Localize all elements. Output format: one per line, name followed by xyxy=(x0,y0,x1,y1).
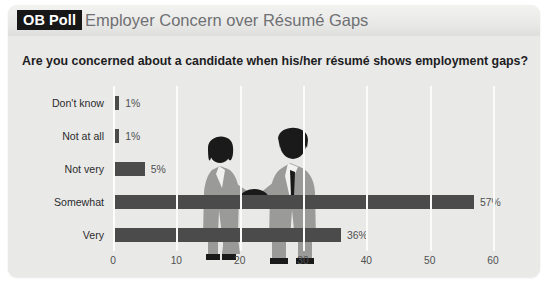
gridline xyxy=(303,86,305,251)
x-axis-tick-label: 0 xyxy=(93,255,133,266)
gridline xyxy=(176,86,178,251)
category-label: Not very xyxy=(65,163,104,175)
bar xyxy=(113,195,474,209)
poll-panel: OB Poll Employer Concern over Résumé Gap… xyxy=(8,5,540,277)
bar xyxy=(113,162,145,176)
bar-value-label: 1% xyxy=(125,97,140,108)
panel-body: Are you concerned about a candidate when… xyxy=(8,36,540,277)
x-axis-tick-label: 60 xyxy=(473,255,513,266)
bar-value-label: 5% xyxy=(151,163,166,174)
page-title: Employer Concern over Résumé Gaps xyxy=(85,9,368,31)
panel-header: OB Poll Employer Concern over Résumé Gap… xyxy=(8,5,540,37)
gridline xyxy=(240,86,242,251)
bar-chart: Don't know1%Not at all1%Not very5%Somewh… xyxy=(113,86,493,251)
gridline xyxy=(366,86,368,251)
gridline xyxy=(493,86,495,251)
x-axis-tick-label: 40 xyxy=(346,255,386,266)
x-axis-tick-label: 30 xyxy=(283,255,323,266)
category-label: Somewhat xyxy=(54,196,104,208)
category-label: Not at all xyxy=(62,130,104,142)
category-label: Don't know xyxy=(52,97,104,109)
ob-poll-badge: OB Poll xyxy=(17,10,82,30)
bar-value-label: 1% xyxy=(125,130,140,141)
bar-value-label: 36% xyxy=(347,229,368,240)
axis-zero-line xyxy=(113,86,115,251)
x-axis-tick-label: 20 xyxy=(220,255,260,266)
gridline xyxy=(430,86,432,251)
poll-question: Are you concerned about a candidate when… xyxy=(22,54,528,68)
x-axis-tick-label: 10 xyxy=(156,255,196,266)
x-axis-tick-label: 50 xyxy=(410,255,450,266)
category-label: Very xyxy=(83,229,104,241)
bar xyxy=(113,228,341,242)
bar-value-label: 57% xyxy=(480,196,501,207)
